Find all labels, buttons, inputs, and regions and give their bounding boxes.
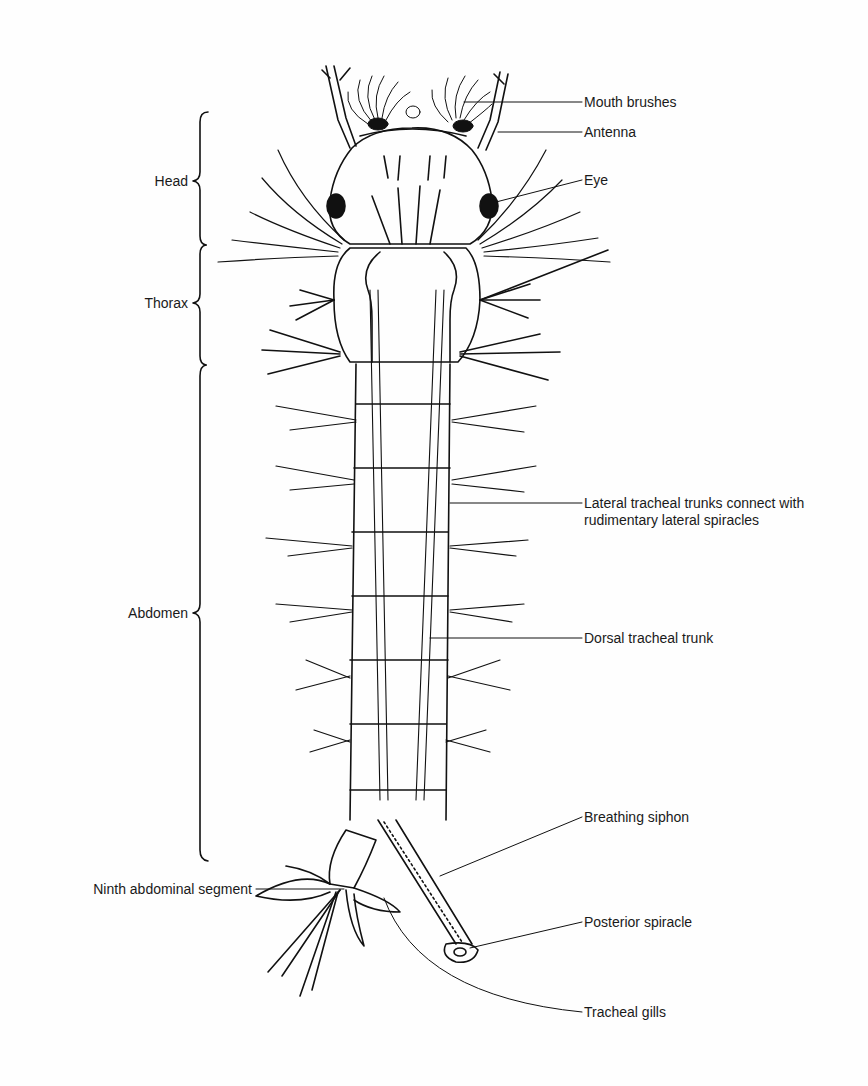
label-breathing-siphon: Breathing siphon (584, 809, 689, 826)
leader-lines (256, 102, 582, 1012)
head-setae (218, 150, 610, 262)
larva-illustration (0, 0, 868, 1086)
antenna-drawing (322, 66, 508, 150)
label-eye: Eye (584, 172, 608, 189)
label-dorsal-tracheal-trunk: Dorsal tracheal trunk (584, 630, 713, 647)
region-label-thorax: Thorax (120, 295, 188, 312)
thorax-brace (193, 245, 206, 365)
label-posterior-spiracle: Posterior spiracle (584, 914, 692, 931)
abdominal-setae (266, 406, 536, 752)
region-label-head: Head (130, 173, 188, 190)
head-capsule (327, 128, 498, 244)
label-lateral-tracheal-trunks: Lateral tracheal trunks connect with rud… (584, 495, 854, 529)
label-antenna: Antenna (584, 124, 636, 141)
mouth-brushes-drawing (348, 76, 492, 132)
tail-drawing (256, 830, 400, 996)
label-mouth-brushes: Mouth brushes (584, 94, 677, 111)
head-brace (193, 112, 208, 245)
label-ninth-abdominal-segment: Ninth abdominal segment (20, 881, 252, 898)
breathing-siphon-drawing (378, 820, 478, 962)
abdomen-drawing (350, 364, 450, 820)
label-tracheal-gills: Tracheal gills (584, 1004, 666, 1021)
abdomen-brace (193, 365, 208, 861)
region-label-abdomen: Abdomen (100, 605, 188, 622)
